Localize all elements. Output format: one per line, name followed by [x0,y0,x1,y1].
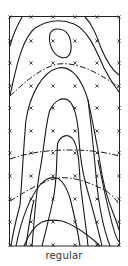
x-marker [29,129,32,132]
contour-top-left [10,17,22,46]
x-marker [51,39,54,42]
x-marker [95,84,98,87]
x-marker [29,151,32,154]
contour-arch-3 [32,99,102,246]
dashdot-line-2 [10,150,119,159]
contour-bottom-bump [24,220,100,246]
x-marker [73,39,76,42]
x-marker [95,129,98,132]
contour-arch-4 [42,136,88,246]
x-marker [29,106,32,109]
contour-top-right [85,17,119,75]
x-marker [51,106,54,109]
contour-arch-5 [16,178,80,246]
figure-caption: regular [0,250,128,261]
x-marker [51,61,54,64]
x-marker [73,129,76,132]
contour-left-1 [11,205,20,246]
x-marker [73,197,76,200]
x-marker [51,129,54,132]
x-marker [73,61,76,64]
contour-lines [10,17,119,246]
contour-right-1 [88,100,110,246]
x-marker [73,174,76,177]
x-marker [29,84,32,87]
contour-plot [0,0,128,266]
x-marker [95,106,98,109]
x-marker [95,61,98,64]
dashdot-line-1 [10,64,119,96]
x-marker [73,151,76,154]
x-marker [51,84,54,87]
x-marker [29,39,32,42]
contour-closed-loop [49,29,71,58]
x-marker [51,151,54,154]
contour-arch-2 [20,68,119,230]
x-marker [29,61,32,64]
x-marker [73,84,76,87]
x-marker [29,174,32,177]
x-marker [51,220,54,223]
